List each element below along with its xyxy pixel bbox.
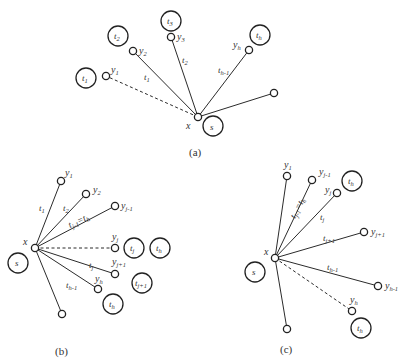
- vertex-yh: [245, 46, 252, 53]
- label-yj: yj: [324, 184, 331, 196]
- label-y2: y2: [92, 184, 101, 196]
- edge-label-th-1: th-1: [218, 65, 229, 76]
- label-x: x: [22, 236, 28, 247]
- caption-a: (a): [189, 146, 202, 159]
- edge-label-tj+1: tj+1: [323, 233, 335, 244]
- edge-x-yh-dashed: [275, 258, 352, 311]
- vertex-leaf: [283, 325, 290, 332]
- vertex-leaf: [270, 89, 277, 96]
- vertex-x: [31, 244, 38, 251]
- vertex-leaf: [58, 310, 65, 317]
- panel-b: s tj th tj+1 th y1 y2 yj-1 yj yj+1 yh x …: [8, 167, 170, 358]
- label-yh: yh: [232, 39, 241, 51]
- label-y1: y1: [110, 64, 119, 76]
- caption-b: (b): [55, 345, 68, 358]
- vertex-y3: [167, 33, 174, 40]
- edge-x-y2: [133, 51, 198, 117]
- label-y1: y1: [283, 159, 292, 171]
- edge-x-leaf: [35, 248, 62, 314]
- edge-label-tj: tj: [89, 260, 94, 271]
- label-yj: yj: [111, 231, 118, 243]
- edge-label-t1: t1: [39, 203, 45, 214]
- vertex-yj: [111, 244, 118, 251]
- vertex-y1: [102, 72, 109, 79]
- edge-x-yh: [198, 50, 249, 117]
- label-yh: yh: [94, 273, 103, 285]
- edge-x-y1: [35, 181, 61, 248]
- edge-label-th-1: th-1: [66, 280, 77, 291]
- vertex-yj+1: [111, 270, 118, 277]
- edge-label-t2: t2: [182, 55, 189, 66]
- label-yj-1: yj-1: [120, 200, 133, 212]
- label-s: s: [15, 258, 19, 268]
- edge-x-yj+1: [35, 248, 115, 274]
- edge-label-tj-1-eq-th: tj-1=th: [288, 196, 308, 220]
- label-yj+1: yj+1: [111, 256, 126, 268]
- vertex-y1: [57, 177, 64, 184]
- edge-label-t1: t1: [144, 72, 150, 83]
- vertex-yj-1: [308, 176, 315, 183]
- vertex-x: [194, 113, 201, 120]
- label-y1: y1: [64, 167, 73, 179]
- edge-label-tj-1-eq-th: tj-1=th: [67, 212, 91, 231]
- label-yj+1: yj+1: [370, 226, 385, 238]
- label-y3: y3: [176, 31, 185, 43]
- edge-label-th-1: th-1: [327, 262, 338, 273]
- caption-c: (c): [280, 343, 293, 356]
- label-y2: y2: [138, 45, 147, 57]
- panel-a: t1 t2 t3 th s y1 y2 y3 yh x t1 t2 th-1 (…: [76, 11, 278, 159]
- vertex-yj: [333, 189, 340, 196]
- edge-x-yj+1: [275, 232, 364, 258]
- vertex-x: [271, 254, 278, 261]
- vertex-yj-1: [111, 202, 118, 209]
- label-yh-1: yh-1: [384, 280, 398, 292]
- label-s: s: [252, 267, 256, 277]
- vertex-yh: [348, 307, 355, 314]
- vertex-yh-1: [374, 282, 381, 289]
- edge-x-leaf: [198, 93, 274, 117]
- edge-x-leaf: [275, 258, 287, 329]
- edge-label-tj: tj: [320, 212, 325, 223]
- edge-label-t2: t2: [63, 203, 70, 214]
- panel-c: s th th y1 yj-1 yj yj+1 yh-1 yh x tj-1=t…: [245, 159, 398, 356]
- vertex-yj+1: [360, 228, 367, 235]
- vertex-y1: [283, 172, 290, 179]
- label-x: x: [185, 120, 191, 131]
- label-s: s: [210, 122, 214, 132]
- vertex-yh: [94, 285, 101, 292]
- vertex-y2: [129, 47, 136, 54]
- diagram: t1 t2 t3 th s y1 y2 y3 yh x t1 t2 th-1 (…: [0, 0, 408, 363]
- label-yj-1: yj-1: [318, 166, 331, 178]
- edge-x-y1-dashed: [106, 76, 198, 117]
- edge-x-y3: [171, 37, 198, 117]
- vertex-y2: [82, 190, 89, 197]
- label-yh: yh: [349, 294, 358, 306]
- label-x: x: [263, 246, 269, 257]
